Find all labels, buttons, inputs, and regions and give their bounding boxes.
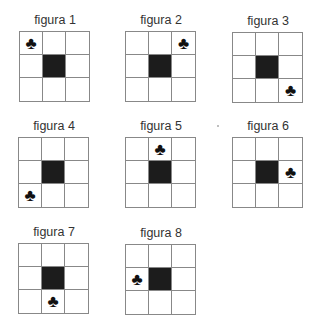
grid-cell bbox=[149, 78, 172, 101]
club-icon: ♣ bbox=[178, 35, 189, 52]
grid-cell bbox=[256, 33, 279, 56]
club-icon: ♣ bbox=[131, 271, 142, 288]
grid-cell bbox=[19, 138, 42, 161]
grid-cell bbox=[279, 33, 302, 56]
center-black-cell bbox=[256, 161, 279, 184]
grid-cell bbox=[172, 268, 195, 291]
grid-cell bbox=[279, 138, 302, 161]
grid-3x3: ♣ bbox=[232, 137, 303, 208]
figure-label: figura 2 bbox=[119, 13, 203, 28]
grid-cell bbox=[233, 161, 256, 184]
grid-3x3: ♣ bbox=[125, 244, 196, 315]
grid-cell bbox=[172, 55, 195, 78]
figure-label: figura 7 bbox=[12, 225, 96, 240]
club-icon: ♣ bbox=[24, 187, 35, 204]
club-icon: ♣ bbox=[285, 82, 296, 99]
grid-cell bbox=[126, 32, 149, 55]
grid-cell bbox=[66, 78, 89, 101]
grid-cell bbox=[149, 291, 172, 314]
figure-label: figura 6 bbox=[226, 119, 310, 134]
grid-cell bbox=[126, 78, 149, 101]
grid-cell bbox=[19, 161, 42, 184]
grid-3x3: ♣ bbox=[18, 137, 89, 208]
figure-7: figura 7♣ bbox=[18, 225, 90, 314]
grid-cell bbox=[65, 138, 88, 161]
grid-cell bbox=[42, 244, 65, 267]
grid-cell bbox=[66, 32, 89, 55]
grid-cell bbox=[172, 138, 195, 161]
grid-cell: ♣ bbox=[172, 32, 195, 55]
grid-cell bbox=[65, 161, 88, 184]
grid-cell bbox=[279, 184, 302, 207]
grid-cell bbox=[19, 267, 42, 290]
grid-cell: ♣ bbox=[42, 290, 65, 313]
grid-cell: ♣ bbox=[279, 79, 302, 102]
grid-cell bbox=[43, 78, 66, 101]
grid-cell bbox=[172, 78, 195, 101]
figure-3: figura 3♣ bbox=[232, 14, 304, 103]
grid-cell bbox=[172, 161, 195, 184]
figure-1: figura 1♣ bbox=[19, 13, 91, 102]
center-black-cell bbox=[149, 161, 172, 184]
grid-3x3: ♣ bbox=[19, 31, 90, 102]
grid-cell bbox=[172, 291, 195, 314]
figure-2: figura 2♣ bbox=[125, 13, 197, 102]
club-icon: ♣ bbox=[154, 141, 165, 158]
grid-cell bbox=[233, 79, 256, 102]
grid-cell bbox=[149, 32, 172, 55]
figure-4: figura 4♣ bbox=[18, 119, 90, 208]
grid-cell bbox=[126, 55, 149, 78]
figure-label: figura 5 bbox=[119, 119, 203, 134]
grid-cell bbox=[172, 184, 195, 207]
grid-cell bbox=[149, 245, 172, 268]
figure-label: figura 4 bbox=[12, 119, 96, 134]
figure-8: figura 8♣ bbox=[125, 226, 197, 315]
center-black-cell bbox=[42, 267, 65, 290]
grid-cell bbox=[233, 56, 256, 79]
center-black-cell bbox=[42, 161, 65, 184]
grid-cell bbox=[279, 56, 302, 79]
grid-cell bbox=[19, 290, 42, 313]
club-icon: ♣ bbox=[285, 164, 296, 181]
grid-cell bbox=[66, 55, 89, 78]
figure-label: figura 3 bbox=[226, 14, 310, 29]
grid-cell bbox=[256, 138, 279, 161]
grid-cell bbox=[20, 55, 43, 78]
figure-label: figura 8 bbox=[119, 226, 203, 241]
grid-cell bbox=[42, 184, 65, 207]
center-black-cell bbox=[43, 55, 66, 78]
grid-3x3: ♣ bbox=[232, 32, 303, 103]
grid-cell bbox=[256, 79, 279, 102]
grid-cell bbox=[20, 78, 43, 101]
grid-cell: ♣ bbox=[20, 32, 43, 55]
stray-dot bbox=[217, 125, 219, 127]
center-black-cell bbox=[256, 56, 279, 79]
grid-cell bbox=[126, 245, 149, 268]
club-icon: ♣ bbox=[47, 293, 58, 310]
grid-cell bbox=[172, 245, 195, 268]
grid-cell: ♣ bbox=[19, 184, 42, 207]
grid-3x3: ♣ bbox=[125, 137, 196, 208]
grid-cell: ♣ bbox=[149, 138, 172, 161]
figure-6: figura 6♣ bbox=[232, 119, 304, 208]
club-icon: ♣ bbox=[25, 35, 36, 52]
figure-label: figura 1 bbox=[13, 13, 97, 28]
grid-cell: ♣ bbox=[126, 268, 149, 291]
grid-cell bbox=[19, 244, 42, 267]
grid-cell bbox=[42, 138, 65, 161]
grid-cell bbox=[233, 138, 256, 161]
grid-3x3: ♣ bbox=[125, 31, 196, 102]
grid-cell bbox=[65, 267, 88, 290]
grid-cell bbox=[126, 184, 149, 207]
grid-cell bbox=[233, 33, 256, 56]
grid-3x3: ♣ bbox=[18, 243, 89, 314]
grid-cell bbox=[65, 290, 88, 313]
center-black-cell bbox=[149, 268, 172, 291]
grid-cell bbox=[65, 244, 88, 267]
grid-cell bbox=[256, 184, 279, 207]
grid-cell bbox=[65, 184, 88, 207]
center-black-cell bbox=[149, 55, 172, 78]
grid-cell bbox=[126, 291, 149, 314]
figure-5: figura 5♣ bbox=[125, 119, 197, 208]
grid-cell bbox=[149, 184, 172, 207]
